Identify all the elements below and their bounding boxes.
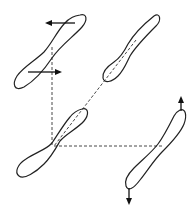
down-arrow-icon [126, 188, 132, 205]
up-arrow-icon [178, 96, 184, 111]
right-arrow-icon [28, 69, 62, 75]
loop-top-left [14, 15, 86, 89]
loop-bottom-right [125, 110, 185, 189]
left-arrow-icon [45, 20, 75, 26]
loop-diagram [0, 0, 194, 215]
dashed-diagonal-connector [54, 40, 136, 146]
